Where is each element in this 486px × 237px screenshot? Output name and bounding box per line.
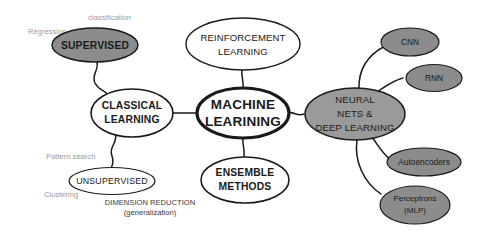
ensemble-methods-label-line1: ENSEMBLE [216,167,275,178]
reinforcement-learning-label-line2: LEARNING [218,46,268,57]
connector-neural-cnn [359,46,385,90]
annotation-pattern-search: Pattern search [46,152,95,161]
annotation-clustering: Clustering [44,190,78,199]
unsupervised-label: UNSUPERVISED [76,176,148,186]
neural-nets-label-line2: NETS & [337,108,373,119]
connector-classical-unsupervised [110,133,116,172]
annotation-classification: classification [88,13,131,22]
machine-learning-label-line1: MACHINE [211,97,275,112]
machine-learning-label-line2: LEARINING [205,114,281,129]
node-perceptrons[interactable]: Perceptrons (MLP) [380,186,450,224]
node-reinforcement-learning[interactable]: REINFORCEMENT LEARNING [186,18,300,70]
node-machine-learning-root[interactable]: MACHINE LEARINING [197,88,289,138]
connector-supervised-classical [94,61,108,95]
cnn-label: CNN [401,37,419,47]
perceptrons-label-line1: Perceptrons [393,194,436,203]
connector-neural-perceptrons [356,140,381,194]
node-cnn[interactable]: CNN [381,28,439,56]
supervised-label: SUPERVISED [61,40,129,51]
neural-nets-label-line3: DEEP LEARNING [316,122,395,133]
node-supervised[interactable]: SUPERVISED [52,28,138,62]
node-rnn[interactable]: RNN [406,65,462,92]
neural-nets-label-line1: NEURAL [335,94,375,105]
perceptrons-label-line2: (MLP) [404,206,426,215]
node-ensemble-methods[interactable]: ENSEMBLE METHODS [201,157,289,203]
reinforcement-learning-label-line1: REINFORCEMENT [201,32,286,43]
rnn-label: RNN [425,73,443,83]
node-autoencoders[interactable]: Autoencoders [387,148,461,176]
perceptrons-ellipse[interactable] [380,186,450,224]
classical-learning-label-line2: LEARNING [104,114,159,125]
reinforcement-learning-ellipse[interactable] [186,18,300,70]
classical-learning-label-line1: CLASSICAL [102,100,163,111]
ensemble-methods-label-line2: METHODS [219,181,272,192]
autoencoders-label: Autoencoders [398,157,450,167]
node-unsupervised[interactable]: UNSUPERVISED [69,168,155,195]
connector-root-ensemble [243,137,244,157]
annotation-generalization: (generalization) [124,208,177,217]
node-classical-learning[interactable]: CLASSICAL LEARNING [91,89,173,137]
connector-neural-rnn [377,78,403,92]
connector-reinforcement-root [242,70,243,89]
machine-learning-mind-map: classification Regression Pattern search… [0,0,486,237]
node-neural-nets-deep-learning[interactable]: NEURAL NETS & DEEP LEARNING [305,88,405,140]
connector-neural-autoencoders [372,137,391,160]
annotation-dimension-reduction: DIMENSION REDUCTION [105,198,195,207]
